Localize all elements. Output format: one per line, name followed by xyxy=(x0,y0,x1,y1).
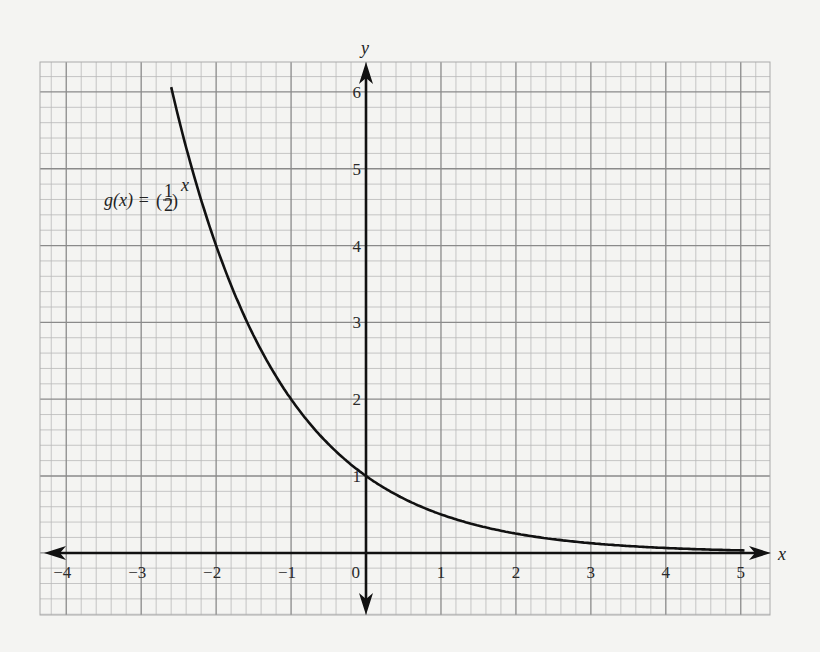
x-tick-label: 3 xyxy=(587,563,596,582)
x-tick-label: −2 xyxy=(203,563,221,582)
x-tick-label: 1 xyxy=(437,563,446,582)
x-tick-label: 2 xyxy=(512,563,521,582)
y-tick-labels: 123456 xyxy=(353,83,362,486)
function-label: g(x) = ( 1 2 ) x xyxy=(104,175,189,215)
x-tick-labels: −4−3−2−1012345 xyxy=(53,563,745,582)
y-axis xyxy=(359,62,373,615)
grid-border xyxy=(40,62,770,615)
function-exponent: x xyxy=(180,175,189,195)
x-tick-label: 0 xyxy=(352,563,361,582)
x-tick-label: −4 xyxy=(53,563,72,582)
y-tick-label: 3 xyxy=(353,313,362,332)
x-tick-label: −1 xyxy=(278,563,296,582)
svg-text:g(x) =: g(x) = xyxy=(104,190,150,211)
function-lhs: g(x) = xyxy=(104,190,150,211)
x-tick-label: 4 xyxy=(662,563,671,582)
chart: −4−3−2−1012345 123456 x y g(x) = ( 1 2 )… xyxy=(0,0,820,652)
y-tick-label: 2 xyxy=(353,390,362,409)
svg-text:): ) xyxy=(172,191,178,212)
grid-minor xyxy=(40,62,770,615)
grid-major xyxy=(40,62,770,615)
y-tick-label: 4 xyxy=(353,237,362,256)
x-tick-label: 5 xyxy=(737,563,746,582)
y-tick-label: 6 xyxy=(353,83,362,102)
x-tick-label: −3 xyxy=(128,563,146,582)
y-tick-label: 5 xyxy=(353,160,362,179)
y-axis-label: y xyxy=(359,38,369,58)
function-curve xyxy=(171,87,744,550)
x-axis-label: x xyxy=(777,544,786,564)
svg-text:(: ( xyxy=(156,191,162,212)
